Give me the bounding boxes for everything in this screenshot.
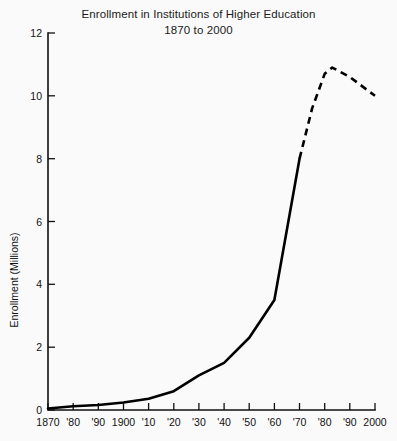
x-tick-label-1970: '70	[293, 416, 307, 428]
x-tick-label-1990: '90	[343, 416, 357, 428]
x-tick-label-1890: '90	[91, 416, 105, 428]
x-tick-label-1920: '20	[167, 416, 181, 428]
x-tick-label-1900: 1900	[112, 416, 136, 428]
axes-group	[48, 33, 375, 410]
x-tick-label-1910: '10	[142, 416, 156, 428]
x-tick-label-2000: 2000	[363, 416, 387, 428]
y-tick-label-8: 8	[36, 153, 42, 165]
chart-figure: Enrollment in Institutions of Higher Edu…	[0, 0, 397, 441]
axis-lines	[48, 33, 375, 410]
y-axis-ticks: 0 2 4 6 8 10 12	[30, 27, 55, 416]
x-tick-label-1880: '80	[66, 416, 80, 428]
y-tick-label-6: 6	[36, 216, 42, 228]
y-tick-label-10: 10	[30, 90, 42, 102]
x-tick-label-1980: '80	[318, 416, 332, 428]
x-tick-label-1950: '50	[242, 416, 256, 428]
y-axis-label: Enrollment (Millions)	[8, 232, 20, 327]
y-tick-label-2: 2	[36, 341, 42, 353]
x-tick-label-1870: 1870	[36, 416, 60, 428]
y-tick-label-4: 4	[36, 278, 42, 290]
x-tick-label-1960: '60	[268, 416, 282, 428]
series-line-actual	[48, 159, 300, 409]
x-tick-label-1940: '40	[217, 416, 231, 428]
series-line-projected	[300, 68, 375, 159]
x-axis-tick-labels: 1870 '80 '90 1900 '10 '20 '30 '40 '50 '6…	[36, 416, 387, 428]
y-tick-label-12: 12	[30, 27, 42, 39]
y-tick-label-0: 0	[36, 404, 42, 416]
x-tick-label-1930: '30	[192, 416, 206, 428]
chart-plot-area: 0 2 4 6 8 10 12 Enrollment (Millions)	[0, 0, 397, 441]
